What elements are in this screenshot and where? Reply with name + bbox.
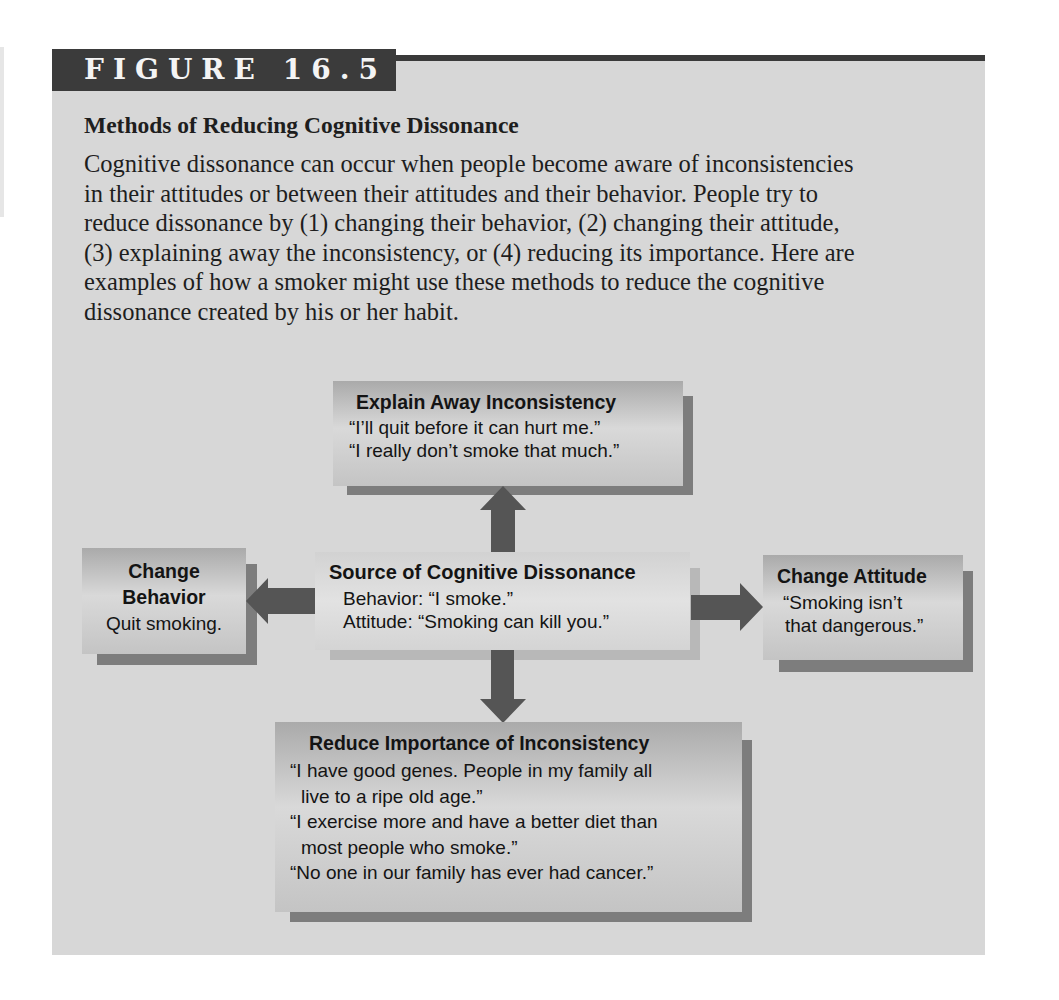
node-line: “No one in our family has ever had cance…	[290, 860, 742, 886]
arrow-down-icon	[479, 650, 527, 723]
caption-line: in their attitudes or between their atti…	[84, 179, 974, 209]
node-line: Behavior: “I smoke.”	[329, 587, 690, 610]
arrow-right-icon	[691, 583, 763, 631]
node-title: Behavior	[82, 584, 246, 610]
caption-line: reduce dissonance by (1) changing their …	[84, 208, 974, 238]
caption-line: dissonance created by his or her habit.	[84, 297, 974, 327]
node-line: Quit smoking.	[82, 610, 246, 638]
node-title: Change	[82, 558, 246, 584]
caption-line: (3) explaining away the inconsistency, o…	[84, 238, 974, 268]
node-line: live to a ripe old age.”	[290, 784, 742, 810]
figure-title: Methods of Reducing Cognitive Dissonance	[84, 112, 519, 139]
node-line: “I have good genes. People in my family …	[290, 758, 742, 784]
arrow-up-icon	[479, 486, 527, 552]
caption-line: examples of how a smoker might use these…	[84, 267, 974, 297]
node-reduce-importance: Reduce Importance of Inconsistency “I ha…	[275, 722, 742, 912]
figure-caption: Cognitive dissonance can occur when peop…	[84, 149, 974, 326]
caption-line: Cognitive dissonance can occur when peop…	[84, 149, 974, 179]
figure-label: FIGURE 16.5	[52, 49, 396, 91]
node-title: Change Attitude	[777, 565, 963, 588]
arrow-left-icon	[246, 578, 316, 624]
node-title: Explain Away Inconsistency	[349, 391, 683, 414]
node-line: “Smoking isn’t	[777, 591, 963, 614]
node-change-behavior: Change Behavior Quit smoking.	[82, 548, 246, 654]
node-line: that dangerous.”	[777, 614, 963, 637]
page-edge	[0, 47, 4, 217]
node-title: Reduce Importance of Inconsistency	[290, 732, 742, 755]
node-title: Source of Cognitive Dissonance	[329, 561, 690, 584]
node-line: “I’ll quit before it can hurt me.”	[349, 416, 683, 439]
node-line: most people who smoke.”	[290, 835, 742, 861]
node-line: Attitude: “Smoking can kill you.”	[329, 610, 690, 633]
node-line: “I really don’t smoke that much.”	[349, 439, 683, 462]
node-source: Source of Cognitive Dissonance Behavior:…	[315, 552, 690, 650]
node-explain-away: Explain Away Inconsistency “I’ll quit be…	[333, 381, 683, 486]
node-line: “I exercise more and have a better diet …	[290, 809, 742, 835]
node-change-attitude: Change Attitude “Smoking isn’t that dang…	[763, 555, 963, 660]
